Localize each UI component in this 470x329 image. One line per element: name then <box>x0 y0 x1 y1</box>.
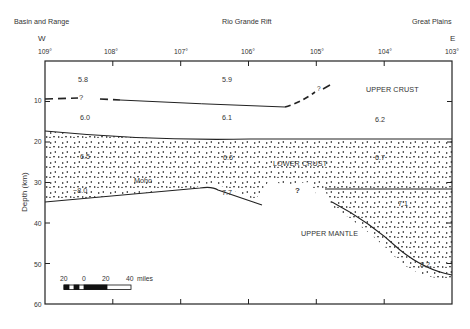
velocity-5-8: 5.8 <box>78 76 88 83</box>
upper-crust-boundary-dashed-right <box>285 92 315 107</box>
velocity-8-2: 8.2 <box>420 261 430 268</box>
question-mark-left: ? <box>79 94 83 102</box>
velocity-5-9: 5.9 <box>222 76 232 83</box>
crustal-cross-section <box>0 0 470 329</box>
question-mark-lower-crust: ? <box>295 187 300 195</box>
scale-label-40: 40 <box>126 276 134 283</box>
velocity-7-1: 7.1 <box>398 200 408 207</box>
upper-crust-boundary-solid <box>120 100 285 107</box>
label-upper-crust: UPPER CRUST <box>366 86 419 93</box>
scale-bar <box>64 285 131 290</box>
velocity-6-7: 6.7 <box>375 154 385 161</box>
velocity-6-1: 6.1 <box>222 114 232 121</box>
velocity-6-6: 6.6 <box>223 154 233 161</box>
velocity-6-0: 6.0 <box>80 114 90 121</box>
scale-label-20: 20 <box>102 276 110 283</box>
velocity-6-2: 6.2 <box>375 116 385 123</box>
scale-label-20-left: 20 <box>60 276 68 283</box>
scale-label-0: 0 <box>82 276 86 283</box>
scale-unit: miles <box>137 276 153 283</box>
label-moho: Moho <box>134 177 152 184</box>
label-lower-crust: LOWER CRUST <box>273 160 327 167</box>
upper-crust-boundary-dashed-left <box>45 98 78 99</box>
question-mark-center: ? <box>317 86 321 93</box>
velocity-6-5: 6.5 <box>80 153 90 160</box>
velocity-7-7: 7.7 <box>222 189 232 196</box>
velocity-8-0: ~8.0 <box>73 187 87 194</box>
upper-crust-boundary-dashed-right-2 <box>323 85 330 89</box>
label-upper-mantle: UPPER MANTLE <box>301 230 358 237</box>
upper-crust-boundary-dashed-left-2 <box>100 99 120 100</box>
